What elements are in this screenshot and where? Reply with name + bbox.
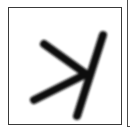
glyph-stroke-1 [44, 44, 86, 74]
handwritten-glyph [0, 0, 130, 134]
glyph-stroke-2 [34, 74, 86, 100]
